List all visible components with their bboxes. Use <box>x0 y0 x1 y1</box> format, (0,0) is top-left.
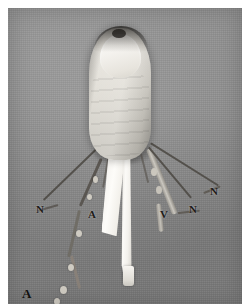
label-vein-right: V <box>160 209 168 220</box>
vein-bead <box>151 168 157 176</box>
artery-bead <box>76 230 82 237</box>
artery-bead <box>68 264 74 271</box>
label-nerve-right-outer: N <box>210 186 218 197</box>
label-nerve-left: N <box>36 204 44 215</box>
artery-bead <box>93 176 98 183</box>
figure-root: N A V N N A <box>0 0 252 304</box>
specimen-layer <box>8 8 242 304</box>
vein-bead <box>156 186 162 194</box>
artery-segment-distal <box>70 255 81 289</box>
digit-tip-notch <box>112 29 126 38</box>
label-nerve-right-inner: N <box>189 204 197 215</box>
artery-bead <box>54 298 60 304</box>
tendon-flap <box>101 153 125 236</box>
artery-bead <box>87 194 92 200</box>
photograph-plate: N A V N N A <box>8 8 242 304</box>
digit-skin-creases <box>91 70 149 156</box>
artery-bead <box>60 286 67 294</box>
tendon-strip-tip <box>123 266 134 286</box>
panel-label: A <box>22 287 31 300</box>
label-artery-left: A <box>88 209 96 220</box>
